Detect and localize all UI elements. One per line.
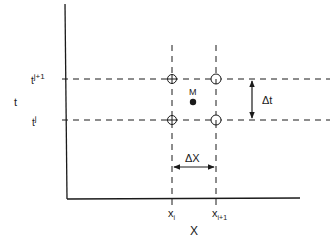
space-grid-lines bbox=[172, 45, 216, 205]
space-label-i: xi bbox=[168, 207, 176, 221]
midpoint-dot-icon bbox=[190, 99, 196, 105]
delta-t-annotation: Δt bbox=[252, 81, 272, 118]
delta-t-label: Δt bbox=[262, 94, 272, 106]
delta-x-label: ΔX bbox=[185, 152, 200, 164]
midpoint: M bbox=[189, 87, 197, 105]
delta-x-annotation: ΔX bbox=[174, 152, 214, 167]
time-label-j: tj bbox=[32, 114, 37, 128]
x-axis bbox=[67, 198, 300, 199]
time-label-j+1: tj+1 bbox=[31, 72, 45, 86]
time-grid-lines bbox=[62, 79, 330, 120]
node-circle-cross-icon bbox=[168, 75, 177, 84]
node-circle-half-icon bbox=[211, 74, 221, 84]
midpoint-label: M bbox=[189, 87, 197, 97]
node-circle-half-icon bbox=[211, 115, 221, 125]
space-label-i+1: xi+1 bbox=[212, 207, 227, 221]
finite-difference-diagram: M Δt ΔX t X tj+1 tj xi xi+1 bbox=[0, 0, 333, 242]
node-circle-cross-icon bbox=[168, 116, 177, 125]
y-axis bbox=[65, 4, 67, 199]
y-axis-label: t bbox=[14, 96, 17, 108]
x-axis-label: X bbox=[190, 224, 198, 238]
